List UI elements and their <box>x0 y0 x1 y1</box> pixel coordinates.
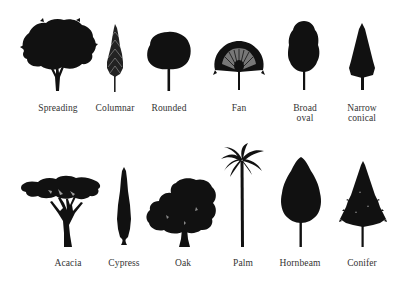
label-text: Conifer <box>347 258 377 268</box>
label-hornbeam: Hornbeam <box>265 258 335 268</box>
label-text-line-1: Narrow <box>327 103 397 113</box>
broad-oval-tree-icon <box>287 21 321 90</box>
conifer-tree-icon <box>340 161 386 247</box>
label-text: Columnar <box>96 103 135 113</box>
hornbeam-tree-icon <box>280 157 322 247</box>
palm-tree-icon <box>218 143 268 247</box>
fan-tree-icon <box>213 40 265 90</box>
label-text: Rounded <box>151 103 186 113</box>
label-conifer: Conifer <box>327 258 397 268</box>
narrow-conical-tree-icon <box>348 23 376 90</box>
spreading-tree-icon <box>20 17 98 92</box>
label-text: Fan <box>232 103 247 113</box>
label-text: Cypress <box>108 258 139 268</box>
label-text: Oak <box>175 258 191 268</box>
tree-shapes-diagram: Spreading Columnar Rounded <box>0 0 404 282</box>
acacia-tree-icon <box>20 175 102 247</box>
label-fan: Fan <box>204 103 274 113</box>
cypress-tree-icon <box>116 167 132 247</box>
label-text: Spreading <box>38 103 77 113</box>
label-text: Hornbeam <box>280 258 321 268</box>
label-rounded: Rounded <box>134 103 204 113</box>
label-text: Palm <box>233 258 253 268</box>
oak-tree-icon <box>146 177 218 247</box>
rounded-tree-icon <box>146 31 192 91</box>
columnar-tree-icon <box>104 24 126 92</box>
label-text: Acacia <box>55 258 82 268</box>
label-narrow-conical: Narrow conical <box>327 103 397 123</box>
label-text-line-2: conical <box>327 113 397 123</box>
